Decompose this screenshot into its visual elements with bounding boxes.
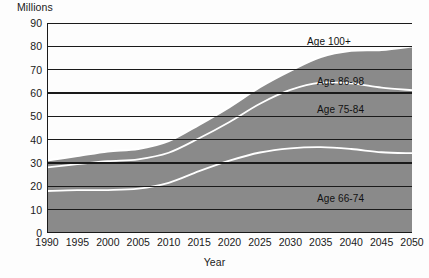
x-tick-2015: 2015	[187, 236, 210, 248]
band-label-age-66-74: Age 66-74	[317, 193, 364, 204]
x-tick-1995: 1995	[66, 236, 89, 248]
x-tick-2035: 2035	[309, 236, 332, 248]
population-projection-chart: Millions 0102030405060708090 19901995200…	[0, 0, 429, 278]
y-tick-20: 20	[30, 180, 42, 192]
band-label-age-86-98: Age 86-98	[317, 76, 364, 87]
y-tick-80: 80	[30, 40, 42, 52]
x-tick-2045: 2045	[370, 236, 393, 248]
y-tick-40: 40	[30, 134, 42, 146]
y-tick-60: 60	[30, 87, 42, 99]
x-tick-2050: 2050	[400, 236, 423, 248]
x-tick-2040: 2040	[339, 236, 362, 248]
y-tick-50: 50	[30, 110, 42, 122]
x-tick-2010: 2010	[157, 236, 180, 248]
x-tick-1990: 1990	[35, 236, 58, 248]
x-tick-2025: 2025	[248, 236, 271, 248]
y-tick-70: 70	[30, 64, 42, 76]
y-tick-90: 90	[30, 17, 42, 29]
y-tick-30: 30	[30, 157, 42, 169]
x-axis-tick-labels: 1990199520002005201020152020202520302035…	[0, 236, 429, 252]
x-tick-2030: 2030	[279, 236, 302, 248]
x-axis-title: Year	[0, 256, 429, 268]
x-tick-2020: 2020	[218, 236, 241, 248]
x-tick-2005: 2005	[127, 236, 150, 248]
y-axis-title: Millions	[17, 1, 53, 13]
x-tick-2000: 2000	[96, 236, 119, 248]
band-label-age-75-84: Age 75-84	[317, 104, 364, 115]
y-axis-tick-labels: 0102030405060708090	[0, 23, 42, 233]
y-tick-10: 10	[30, 204, 42, 216]
band-label-age-100-: Age 100+	[307, 36, 351, 47]
